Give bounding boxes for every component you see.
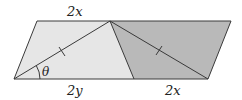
label-bottom-right: 2x [164, 83, 181, 98]
label-bottom-left: 2y [66, 83, 83, 98]
label-angle-theta: θ [42, 65, 50, 79]
parallelogram-diagram: 2x 2y 2x θ [0, 0, 242, 100]
label-top: 2x [66, 4, 83, 19]
